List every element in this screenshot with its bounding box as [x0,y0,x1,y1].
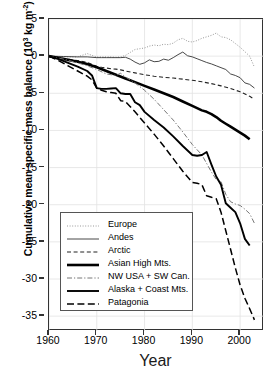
legend-item[interactable]: Alaska + Coast Mts. [66,282,192,295]
legend-line-sample-icon [66,231,100,243]
x-axis-title: Year [139,352,171,369]
legend-item[interactable]: Arctic [66,243,192,256]
series-line-asian-high-mts [49,56,250,139]
x-axis-title-wrap: Year [48,352,263,370]
legend-line-sample-icon [66,244,100,256]
y-tick-label: 0 [31,49,37,61]
legend-item[interactable]: NW USA + SW Can. [66,269,192,282]
legend-line-sample-icon [66,218,100,230]
y-tick-mark [39,314,44,315]
legend-item[interactable]: Patagonia [66,295,192,308]
legend-line-sample-icon [66,283,100,295]
legend-item-label: NW USA + SW Can. [108,271,190,281]
legend-line-sample-icon [66,296,100,308]
y-axis-ticks: 50-5-10-15-20-25-30-35 [0,18,44,330]
x-tick-mark [47,330,48,335]
y-tick-label: -5 [28,86,37,98]
y-tick-mark [39,92,44,93]
legend-item-label: Andes [108,232,134,242]
x-tick-mark [191,330,192,335]
legend-item-label: Asian High Mts. [108,258,171,268]
legend-line-sample-icon [66,257,100,269]
x-tick-mark [143,330,144,335]
x-tick-label: 1970 [73,334,119,346]
series-line-andes [49,52,254,88]
y-tick-mark [39,54,44,55]
y-axis-title-exponent-minus2: -2 [22,5,29,11]
legend-item[interactable]: Andes [66,230,192,243]
legend-item[interactable]: Asian High Mts. [66,256,192,269]
y-tick-label: -30 [22,272,37,284]
y-tick-label: -10 [22,123,37,135]
y-tick-mark [39,277,44,278]
x-tick-label: 1980 [121,334,167,346]
chart-legend: EuropeAndesArcticAsian High Mts.NW USA +… [60,212,193,311]
y-axis-title-tail: ) [22,1,34,4]
legend-item-label: Europe [108,219,137,229]
y-tick-mark [39,17,44,18]
y-tick-mark [39,166,44,167]
legend-item-label: Patagonia [108,297,149,307]
legend-item[interactable]: Europe [66,217,192,230]
y-tick-label: -15 [22,161,37,173]
x-tick-label: 1960 [25,334,71,346]
y-tick-label: -20 [22,198,37,210]
legend-item-label: Arctic [108,245,131,255]
legend-line-sample-icon [66,270,100,282]
y-tick-mark [39,129,44,130]
y-tick-mark [39,203,44,204]
y-tick-label: -35 [22,309,37,321]
legend-item-label: Alaska + Coast Mts. [108,284,188,294]
y-tick-label: 5 [31,12,37,24]
x-tick-mark [95,330,96,335]
x-tick-label: 1990 [168,334,214,346]
x-tick-mark [238,330,239,335]
chart-figure: Cumulative mean specific mass balance (1… [0,0,274,372]
x-tick-label: 2000 [216,334,262,346]
y-tick-mark [39,240,44,241]
y-tick-label: -25 [22,235,37,247]
